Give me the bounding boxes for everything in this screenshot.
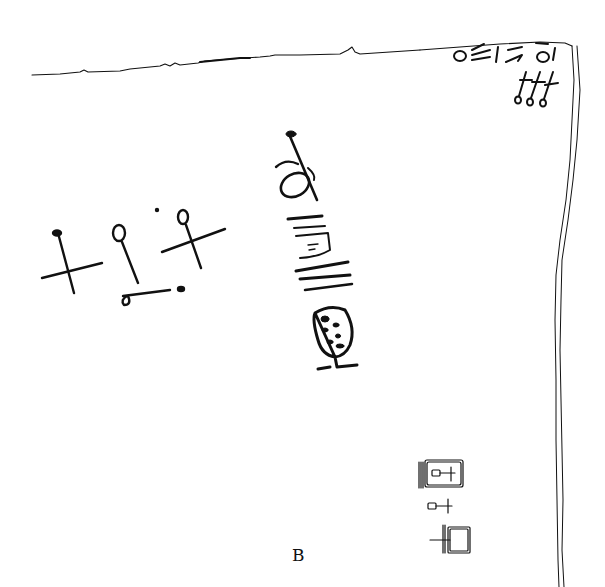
fragment-right-edge [555,46,580,587]
left-signs [42,209,225,305]
bottom-right-signs [419,460,470,553]
top-right-inscription [454,43,558,107]
fragment-top-edge [32,42,572,75]
plate-label: B [292,545,305,565]
central-column-signs [276,131,357,369]
